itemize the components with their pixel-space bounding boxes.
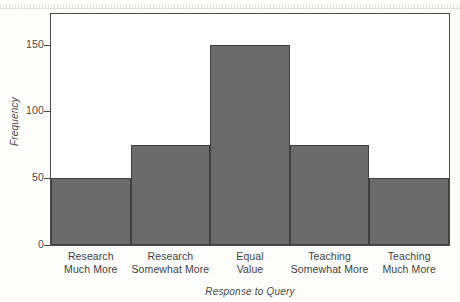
y-tick-label-150: 150 bbox=[12, 38, 44, 50]
bar-1 bbox=[131, 145, 211, 245]
histogram-figure: 150 100 50 0 Frequency ResearchMuch More… bbox=[0, 0, 460, 302]
bar-2 bbox=[210, 45, 290, 245]
x-tick-label-3-line1: Teaching bbox=[308, 250, 351, 262]
bar-series bbox=[51, 14, 449, 245]
x-tick-label-2-line1: Equal bbox=[236, 250, 263, 262]
x-tick-label-1-line2: Somewhat More bbox=[131, 263, 211, 276]
x-tick-label-4: TeachingMuch More bbox=[369, 250, 449, 282]
x-tick-label-0: ResearchMuch More bbox=[51, 250, 131, 282]
x-axis-labels: ResearchMuch MoreResearchSomewhat MoreEq… bbox=[51, 250, 449, 282]
y-axis-labels: 150 100 50 0 bbox=[0, 0, 44, 302]
bar-4 bbox=[369, 178, 449, 245]
x-tick-label-0-line2: Much More bbox=[51, 263, 131, 276]
y-tick-label-0: 0 bbox=[12, 238, 44, 250]
x-tick-label-2: EqualValue bbox=[210, 250, 290, 282]
x-tick-label-0-line1: Research bbox=[68, 250, 114, 262]
bar-0 bbox=[51, 178, 131, 245]
y-axis-title: Frequency bbox=[9, 77, 20, 167]
x-tick-label-1-line1: Research bbox=[148, 250, 194, 262]
x-tick-label-1: ResearchSomewhat More bbox=[131, 250, 211, 282]
scan-artifact-line-secondary bbox=[0, 8, 460, 9]
bar-3 bbox=[290, 145, 370, 245]
x-tick-label-3-line2: Somewhat More bbox=[290, 263, 370, 276]
x-tick-label-2-line2: Value bbox=[210, 263, 290, 276]
x-tick-label-4-line2: Much More bbox=[369, 263, 449, 276]
x-axis-title: Response to Query bbox=[50, 286, 450, 297]
y-tick-label-50: 50 bbox=[12, 171, 44, 183]
x-tick-label-3: TeachingSomewhat More bbox=[290, 250, 370, 282]
x-tick-label-4-line1: Teaching bbox=[388, 250, 431, 262]
